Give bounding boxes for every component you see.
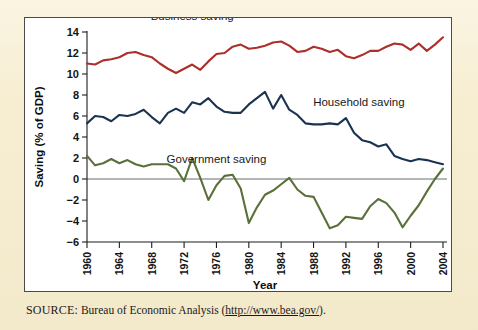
y-axis-tick-label: 6	[73, 110, 79, 122]
source-label: SOURCE:	[26, 303, 78, 317]
y-axis-tick-label: −4	[66, 215, 79, 227]
x-axis-tick-label: 1972	[178, 252, 190, 276]
series-label-household-saving: Household saving	[313, 96, 404, 108]
x-axis-tick-label: 1988	[308, 252, 320, 276]
chart-plot-panel: −6−4−20246810121419601964196819721976198…	[24, 17, 452, 292]
series-label-business-saving: Business saving	[151, 18, 234, 22]
x-axis-tick-label: 1976	[210, 252, 222, 276]
x-axis-title: Year	[253, 279, 278, 291]
source-tail: ).	[319, 304, 326, 316]
source-url-link[interactable]: http://www.bea.gov/	[225, 304, 319, 316]
series-line-business-saving	[87, 37, 443, 73]
figure-container: −6−4−20246810121419601964196819721976198…	[0, 0, 478, 330]
y-axis-title: Saving (% of GDP)	[33, 86, 45, 187]
x-axis-tick-label: 1980	[243, 252, 255, 276]
x-axis-tick-label: 2004	[437, 252, 449, 276]
x-axis-tick-label: 1960	[81, 252, 93, 276]
x-axis-tick-label: 1996	[372, 252, 384, 276]
y-axis-tick-label: −2	[66, 194, 79, 206]
x-axis-tick-label: 2000	[405, 252, 417, 276]
y-axis-tick-label: 12	[67, 47, 79, 59]
series-line-government-saving	[87, 156, 443, 228]
x-axis-tick-label: 1984	[275, 252, 287, 276]
saving-rates-line-chart: −6−4−20246810121419601964196819721976198…	[25, 18, 451, 291]
source-note: SOURCE: Bureau of Economic Analysis (htt…	[26, 303, 466, 318]
y-axis-tick-label: −6	[66, 236, 79, 248]
y-axis-tick-label: 0	[73, 173, 79, 185]
x-axis-tick-label: 1968	[146, 252, 158, 276]
y-axis-tick-label: 2	[73, 152, 79, 164]
x-axis-tick-label: 1964	[113, 252, 125, 276]
y-axis-tick-label: 4	[73, 131, 80, 143]
series-label-government-saving: Government saving	[167, 153, 267, 165]
y-axis-tick-label: 8	[73, 89, 79, 101]
y-axis-tick-label: 14	[67, 26, 80, 38]
x-axis-tick-label: 1992	[340, 252, 352, 276]
source-text: Bureau of Economic Analysis (	[78, 304, 225, 316]
y-axis-tick-label: 10	[67, 68, 79, 80]
